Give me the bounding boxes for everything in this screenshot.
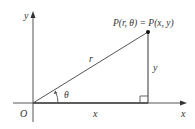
y-axis — [31, 11, 36, 122]
radius-segment — [33, 32, 148, 103]
polar-coordinates-diagram: y x O P(r, θ) = P(x, y) r y x θ — [0, 0, 195, 129]
radius-label: r — [89, 53, 93, 64]
point-p-label: P(r, θ) = P(x, y) — [112, 18, 174, 29]
point-p-dot — [146, 30, 150, 34]
origin-label: O — [20, 108, 27, 119]
y-axis-arrow-icon — [31, 11, 36, 18]
x-axis-label: x — [180, 108, 186, 119]
vertical-label: y — [152, 62, 158, 73]
x-axis-arrow-icon — [180, 101, 187, 106]
angle-label: θ — [64, 90, 69, 100]
horizontal-label: x — [92, 108, 98, 119]
angle-arrow-icon — [54, 91, 58, 95]
y-axis-label: y — [23, 10, 29, 21]
right-angle-icon — [140, 96, 148, 103]
